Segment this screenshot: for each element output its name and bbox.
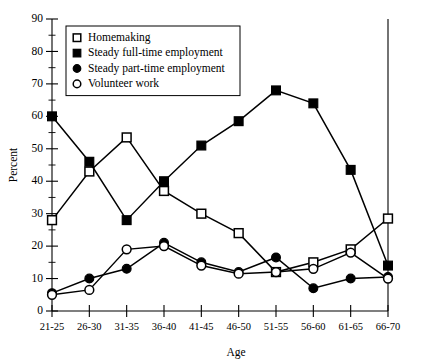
y-tick-label: 10 xyxy=(32,272,44,284)
data-point xyxy=(346,165,355,174)
legend-marker-filled-square xyxy=(73,49,81,57)
data-point xyxy=(122,264,131,273)
y-axis: 0102030405060708090 xyxy=(32,12,59,316)
data-point xyxy=(384,274,393,283)
legend-label: Steady full-time employment xyxy=(88,46,224,59)
data-point xyxy=(85,286,94,295)
legend-label: Steady part-time employment xyxy=(88,62,225,75)
data-point xyxy=(197,141,206,150)
line-chart: 0102030405060708090 21-2526-3031-3536-40… xyxy=(0,0,423,364)
legend-label: Volunteer work xyxy=(88,77,159,89)
series-line xyxy=(52,243,388,293)
data-point xyxy=(85,157,94,166)
x-tick-label: 36-40 xyxy=(152,321,177,332)
series-steady-full-time-employment xyxy=(48,86,393,270)
data-point xyxy=(346,274,355,283)
y-tick-label: 50 xyxy=(32,142,44,154)
data-point xyxy=(160,187,169,196)
data-point xyxy=(122,133,131,142)
y-tick-label: 0 xyxy=(37,304,43,316)
x-tick-label: 46-50 xyxy=(226,321,251,332)
data-point xyxy=(272,268,281,277)
y-tick-label: 40 xyxy=(32,174,44,186)
data-point xyxy=(272,253,281,262)
data-point xyxy=(309,284,318,293)
data-point xyxy=(48,216,57,225)
y-tick-label: 20 xyxy=(32,239,44,251)
series-layer xyxy=(48,86,393,299)
data-point xyxy=(234,117,243,126)
x-tick-label: 61-65 xyxy=(338,321,363,332)
y-tick-label: 30 xyxy=(32,207,44,219)
data-point xyxy=(309,264,318,273)
y-tick-label: 60 xyxy=(32,109,44,121)
x-tick-label: 21-25 xyxy=(40,321,65,332)
data-point xyxy=(272,86,281,95)
series-volunteer-work xyxy=(48,242,393,299)
data-point xyxy=(384,261,393,270)
data-point xyxy=(197,261,206,270)
legend-marker-open-circle xyxy=(73,80,81,88)
legend-label: Homemaking xyxy=(88,31,151,44)
x-tick-label: 41-45 xyxy=(189,321,214,332)
data-point xyxy=(122,245,131,254)
data-point xyxy=(309,99,318,108)
legend-marker-open-square xyxy=(73,34,81,42)
data-point xyxy=(85,167,94,176)
data-point xyxy=(234,269,243,278)
x-tick-label: 31-35 xyxy=(114,321,139,332)
x-tick-label: 26-30 xyxy=(77,321,102,332)
legend-marker-filled-circle xyxy=(73,65,81,73)
y-tick-label: 70 xyxy=(32,77,44,89)
x-tick-label: 66-70 xyxy=(376,321,401,332)
x-axis-title: Age xyxy=(226,346,245,359)
data-point xyxy=(234,229,243,238)
x-tick-label: 56-60 xyxy=(301,321,326,332)
data-point xyxy=(384,214,393,223)
series-line xyxy=(52,137,388,272)
legend-item[interactable]: Steady part-time employment xyxy=(73,62,225,75)
y-tick-label: 80 xyxy=(32,45,44,57)
data-point xyxy=(122,216,131,225)
y-tick-label: 90 xyxy=(32,12,44,24)
chart-legend: HomemakingSteady full-time employmentSte… xyxy=(66,26,240,96)
series-steady-part-time-employment xyxy=(48,238,393,297)
data-point xyxy=(160,177,169,186)
chart-container: 0102030405060708090 21-2526-3031-3536-40… xyxy=(0,0,423,364)
series-homemaking xyxy=(48,133,393,276)
data-point xyxy=(48,112,57,121)
data-point xyxy=(197,209,206,218)
data-point xyxy=(160,242,169,251)
y-axis-title: Percent xyxy=(7,147,19,182)
data-point xyxy=(85,274,94,283)
data-point xyxy=(48,290,57,299)
data-point xyxy=(346,248,355,257)
series-line xyxy=(52,90,388,265)
x-tick-label: 51-55 xyxy=(264,321,289,332)
legend-item[interactable]: Steady full-time employment xyxy=(73,46,223,59)
